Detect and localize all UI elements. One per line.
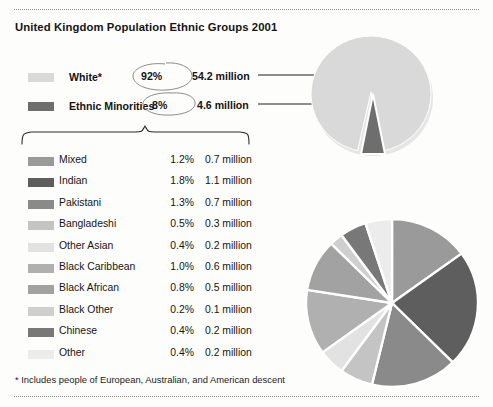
legend-millions-white: 54.2 million (192, 70, 250, 82)
table-row-label: Chinese (59, 325, 97, 336)
top-divider-rule (14, 9, 479, 10)
table-row-percent: 0.8% (164, 282, 194, 293)
table-row-percent: 0.5% (164, 218, 194, 229)
table-row-percent: 1.2% (164, 154, 194, 165)
table-row-millions: 0.2 million (205, 240, 252, 251)
table-row-swatch (28, 328, 54, 337)
table-row-millions: 0.7 million (205, 154, 252, 165)
table-row-percent: 0.4% (164, 325, 194, 336)
table-row-swatch (28, 307, 54, 316)
legend-swatch-white (28, 73, 54, 82)
table-row-millions: 1.1 million (205, 175, 252, 186)
table-row-millions: 0.5 million (205, 282, 252, 293)
table-row-swatch (28, 243, 54, 252)
legend-label-ethnic-minorities: Ethnic Minorities (69, 100, 154, 112)
handdrawn-brace (22, 126, 249, 144)
page-title: United Kingdom Population Ethnic Groups … (15, 21, 277, 33)
table-row-percent: 1.3% (164, 197, 194, 208)
table-row-percent: 1.0% (164, 261, 194, 272)
legend-item-ethnic-minorities: Ethnic Minorities (28, 99, 154, 113)
table-row-millions: 0.2 million (205, 325, 252, 336)
footnote: * Includes people of European, Australia… (15, 374, 285, 385)
table-row-millions: 0.6 million (205, 261, 252, 272)
infographic-page: United Kingdom Population Ethnic Groups … (0, 0, 493, 407)
table-row-millions: 0.2 million (205, 347, 252, 358)
table-row-percent: 0.2% (164, 304, 194, 315)
legend-label-white: White* (69, 71, 102, 83)
ethnic-minorities-pie (295, 214, 490, 392)
table-row-label: Black Other (59, 304, 113, 315)
table-row-label: Other Asian (59, 240, 113, 251)
table-row-millions: 0.1 million (205, 304, 252, 315)
legend-millions-ethnic-minorities: 4.6 million (197, 99, 249, 111)
table-row-millions: 0.3 million (205, 218, 252, 229)
table-row-swatch (28, 200, 54, 209)
table-row-swatch (28, 178, 54, 187)
table-row-percent: 0.4% (164, 347, 194, 358)
table-row-millions: 0.7 million (205, 197, 252, 208)
table-row-label: Indian (59, 175, 87, 186)
table-row-swatch (28, 157, 54, 166)
table-row-label: Mixed (59, 154, 87, 165)
table-row-swatch (28, 264, 54, 273)
table-row-label: Pakistani (59, 197, 101, 208)
table-row-label: Black African (59, 282, 119, 293)
table-row-label: Bangladeshi (59, 218, 116, 229)
table-row-label: Other (59, 347, 85, 358)
table-row-label: Black Caribbean (59, 261, 135, 272)
legend-percent-ethnic-minorities: 8% (152, 99, 167, 111)
overall-population-pie (300, 22, 450, 162)
legend-swatch-ethnic-minorities (28, 102, 54, 111)
table-row-swatch (28, 221, 54, 230)
legend-percent-white: 92% (141, 70, 162, 82)
bottom-divider-rule (14, 396, 479, 397)
table-row-percent: 1.8% (164, 175, 194, 186)
table-row-percent: 0.4% (164, 240, 194, 251)
table-row-swatch (28, 350, 54, 359)
legend-item-white: White* (28, 70, 102, 84)
table-row-swatch (28, 285, 54, 294)
